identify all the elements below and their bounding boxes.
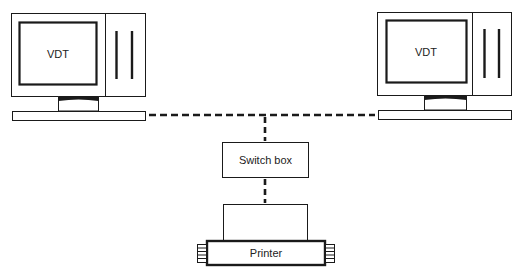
diagram-canvas: VDT VDT Switch box xyxy=(0,0,523,279)
printer-label: Printer xyxy=(250,247,283,259)
switch-box: Switch box xyxy=(223,143,309,178)
platen-knob-right xyxy=(326,245,335,263)
switch-box-label: Switch box xyxy=(239,154,293,166)
vdt-left: VDT xyxy=(12,14,146,121)
vdt-right: VDT xyxy=(378,13,512,120)
monitor-base xyxy=(379,111,512,120)
platen-knob-left xyxy=(198,245,207,263)
monitor-base xyxy=(13,112,146,121)
printer: Printer xyxy=(198,205,335,266)
vdt-left-label: VDT xyxy=(47,48,69,60)
vdt-right-label: VDT xyxy=(415,46,437,58)
printer-paper xyxy=(224,205,308,242)
